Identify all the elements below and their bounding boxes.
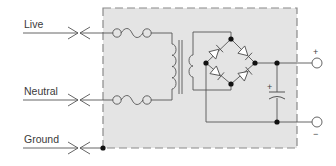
input-label-live: Live [24,18,43,30]
capacitor-polarity: + [267,82,272,92]
input-label-ground: Ground [24,133,59,145]
output-terminal-negative [312,117,322,127]
output-label-negative: − [313,129,318,139]
power-supply-schematic: Live Neutral Ground [0,0,336,166]
output-label-positive: + [313,47,318,57]
output-terminal-positive [312,58,322,68]
enclosure-box [103,8,297,148]
input-label-neutral: Neutral [24,85,58,97]
